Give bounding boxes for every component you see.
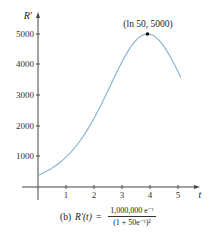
y-tick-label: 3000 (16, 90, 35, 100)
x-axis-label: t (199, 189, 202, 200)
y-tick-label: 5000 (16, 29, 35, 39)
y-tick-label: 1000 (16, 151, 35, 161)
caption-equals: = (96, 212, 101, 222)
max-point-marker (146, 32, 150, 36)
x-tick-label: 4 (148, 190, 153, 200)
max-point-annotation: (ln 50, 5000) (123, 19, 172, 30)
caption-numerator: 1,000,000 e⁻ᵗ (108, 206, 155, 217)
caption-prefix: (b) (60, 212, 71, 222)
y-axis-arrow-icon (36, 12, 40, 18)
x-tick-label: 5 (176, 190, 181, 200)
x-tick-label: 3 (120, 190, 125, 200)
y-axis-label: R′ (23, 10, 33, 21)
caption-denominator: (1 + 50e⁻ᵗ)² (111, 217, 153, 227)
chart-caption: (b) R′(t) = 1,000,000 e⁻ᵗ (1 + 50e⁻ᵗ)² (60, 206, 156, 227)
y-tick-label: 2000 (16, 121, 35, 131)
caption-function: R′(t) (75, 212, 92, 222)
x-tick-label: 1 (64, 190, 69, 200)
caption-fraction: 1,000,000 e⁻ᵗ (1 + 50e⁻ᵗ)² (108, 206, 155, 227)
x-tick-label: 2 (92, 190, 97, 200)
y-tick-label: 4000 (16, 59, 35, 69)
data-curve (38, 34, 181, 175)
